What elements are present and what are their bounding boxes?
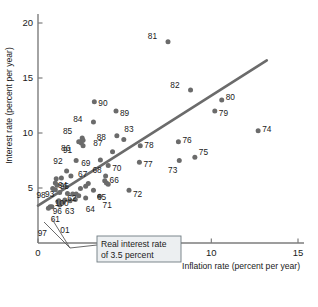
data-point-label: 82: [170, 80, 180, 90]
data-point-label: 84: [73, 114, 83, 124]
data-point-label: 69: [81, 158, 91, 168]
data-point-label: 64: [86, 204, 96, 214]
data-point-label: 78: [144, 140, 154, 150]
data-point: [81, 143, 86, 148]
data-point: [103, 173, 108, 178]
data-point-label: 75: [199, 147, 209, 157]
data-point-label: 62: [67, 193, 77, 203]
data-point: [83, 195, 88, 200]
data-point-label: 61: [51, 214, 61, 224]
data-point-label: 79: [219, 108, 229, 118]
trend-line: [38, 60, 267, 205]
data-point: [76, 193, 81, 198]
data-point: [83, 184, 88, 189]
data-point: [110, 149, 115, 154]
data-point: [74, 158, 79, 163]
data-point: [121, 137, 126, 142]
data-point-label: 92: [53, 156, 63, 166]
data-point: [138, 143, 143, 148]
y-tick-label: 10: [22, 127, 33, 138]
data-point-label: 98: [36, 190, 46, 200]
data-point: [81, 138, 86, 143]
data-point: [188, 88, 193, 93]
y-tick-label: 5: [28, 182, 33, 193]
data-point: [192, 155, 197, 160]
x-tick-label: 0: [35, 247, 40, 258]
data-point: [91, 120, 96, 125]
data-points: [46, 39, 261, 211]
callout-line-1: Real interest rate: [101, 239, 167, 249]
data-point-label: 77: [143, 159, 153, 169]
data-point-label: 63: [65, 206, 75, 216]
data-point: [137, 160, 142, 165]
x-tick-label: 10: [206, 247, 217, 258]
data-point: [98, 157, 103, 162]
data-point-label: 94: [58, 180, 68, 190]
callout-leader-line: [70, 245, 97, 248]
data-point: [177, 158, 182, 163]
point-labels: 8182807990898474838885867678879175737769…: [36, 31, 271, 237]
y-axis-title: Interest rate (percent per year): [4, 47, 14, 164]
data-point: [114, 109, 119, 114]
data-point: [114, 133, 119, 138]
data-point-label: 85: [63, 126, 73, 136]
real-interest-rate-line: [38, 60, 267, 205]
data-point: [91, 188, 96, 193]
data-point-label: 68: [92, 165, 102, 175]
data-point: [166, 39, 171, 44]
x-tick-label: 15: [293, 247, 304, 258]
data-point-label: 73: [168, 165, 178, 175]
y-tick-label: 15: [22, 72, 33, 83]
data-point: [127, 188, 132, 193]
data-point-label: 66: [110, 175, 120, 185]
data-point-label: 89: [120, 108, 130, 118]
data-point-label: 76: [182, 135, 192, 145]
data-point: [176, 139, 181, 144]
callout-line-2: of 3.5 percent: [101, 250, 154, 260]
data-point-label: 67: [78, 169, 88, 179]
data-point-label: 93: [45, 189, 55, 199]
data-point: [106, 163, 111, 168]
data-point: [256, 128, 261, 133]
data-point: [92, 99, 97, 104]
data-point: [68, 173, 73, 178]
data-point-label: 83: [124, 124, 134, 134]
scatter-chart: 5101520051015 81828079908984748388858676…: [0, 0, 318, 307]
data-point: [212, 109, 217, 114]
chart-canvas: 5101520051015 81828079908984748388858676…: [0, 0, 318, 307]
data-point: [78, 186, 83, 191]
data-point: [64, 168, 69, 173]
data-point-label: 72: [133, 189, 143, 199]
data-point-label: 81: [148, 31, 158, 41]
data-point-label: 70: [112, 163, 122, 173]
y-tick-label: 20: [22, 17, 33, 28]
data-point-label: 91: [63, 145, 73, 155]
data-point-label: 87: [93, 138, 103, 148]
data-point-label: 90: [98, 98, 108, 108]
x-axis-title: Inflation rate (percent per year): [182, 261, 300, 271]
data-point-label: 80: [226, 92, 236, 102]
data-point: [219, 98, 224, 103]
data-point-label: 97: [38, 228, 48, 238]
data-point-label: 71: [103, 200, 113, 210]
data-point: [76, 139, 81, 144]
data-point-label: 74: [262, 124, 272, 134]
